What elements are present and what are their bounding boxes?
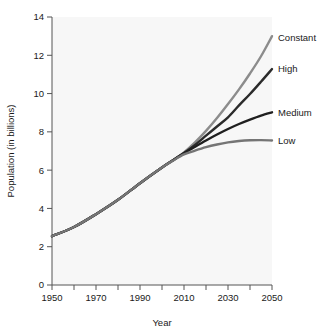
population-projection-chart: 02468101214 195019701990201020302050 Con…	[0, 0, 323, 335]
x-tick-label: 2030	[217, 292, 238, 303]
y-tick-label: 0	[39, 279, 44, 290]
x-tick-label: 2010	[173, 292, 194, 303]
series-label-medium: Medium	[278, 107, 312, 118]
y-tick-label: 6	[39, 165, 44, 176]
y-tick-label: 12	[33, 50, 44, 61]
y-tick-label: 2	[39, 241, 44, 252]
y-axis-ticks: 02468101214	[33, 11, 52, 290]
y-tick-label: 14	[33, 11, 44, 22]
x-tick-label: 1970	[85, 292, 106, 303]
series-labels-group: ConstantHighMediumLow	[278, 32, 316, 146]
series-label-high: High	[278, 63, 298, 74]
x-tick-label: 1950	[41, 292, 62, 303]
y-axis-title: Population (in billions)	[5, 105, 16, 198]
series-label-constant: Constant	[278, 32, 316, 43]
x-axis-ticks: 195019701990201020302050	[41, 285, 282, 303]
chart-canvas: 02468101214 195019701990201020302050 Con…	[0, 0, 323, 335]
y-tick-label: 8	[39, 126, 44, 137]
y-tick-label: 10	[33, 88, 44, 99]
y-tick-label: 4	[39, 203, 44, 214]
x-tick-label: 1990	[129, 292, 150, 303]
x-tick-label: 2050	[261, 292, 282, 303]
series-label-low: Low	[278, 135, 296, 146]
plot-area-background	[52, 17, 272, 285]
x-axis-title: Year	[152, 317, 171, 328]
